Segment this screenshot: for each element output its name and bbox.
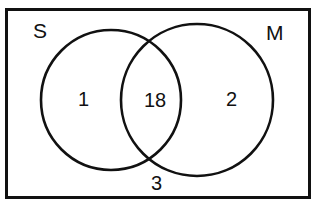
set-label-m: M [266,22,284,43]
region-count-intersection: 18 [144,90,166,110]
region-count-m-only: 2 [226,89,237,109]
venn-diagram-figure: S M 1 18 2 3 [0,0,317,205]
region-count-outside: 3 [151,173,162,193]
set-label-s: S [33,20,47,41]
region-count-s-only: 1 [78,89,89,109]
